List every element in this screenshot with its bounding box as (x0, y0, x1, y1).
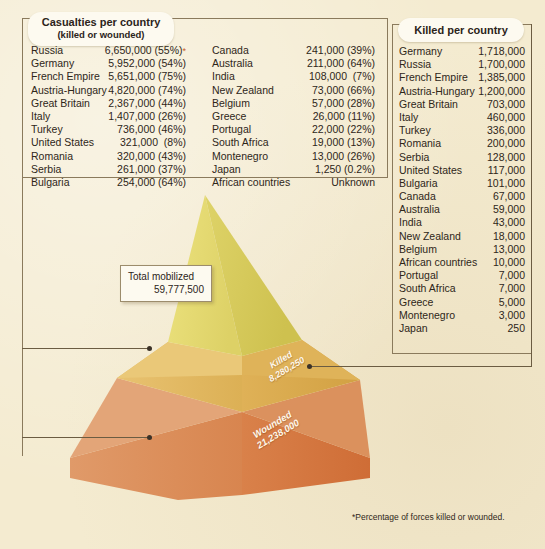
casualties-column-right: Canada241,000 (39%)Australia211,000 (64%… (212, 44, 375, 189)
row-value: 200,000 (487, 137, 525, 150)
table-row: Italy460,000 (399, 111, 525, 124)
row-country: African countries (399, 256, 477, 269)
table-row: Belgium13,000 (399, 243, 525, 256)
row-value: 241,000 (39%) (306, 44, 375, 57)
table-row: Romania320,000 (43%) (31, 150, 186, 163)
row-value: 1,407,000 (26%) (108, 110, 186, 123)
row-country: Turkey (31, 123, 63, 136)
row-value: 5,000 (499, 296, 525, 309)
row-country: Belgium (212, 97, 250, 110)
row-country: Austria-Hungary (31, 84, 107, 97)
row-value: 320,000 (43%) (117, 150, 186, 163)
table-row: Russia1,700,000 (399, 58, 525, 71)
row-country: Great Britain (31, 97, 90, 110)
row-country: Serbia (31, 163, 61, 176)
row-value: 1,200,000 (478, 85, 525, 98)
casualties-panel-title: Casualties per country (killed or wounde… (28, 12, 174, 46)
row-country: Australia (399, 203, 440, 216)
row-value: 4,820,000 (74%) (108, 84, 186, 97)
row-value: 117,000 (488, 164, 525, 177)
row-value: 108,000 (7%) (309, 70, 375, 83)
row-country: French Empire (31, 70, 100, 83)
table-row: Portugal22,000 (22%) (212, 123, 375, 136)
row-value: 1,718,000 (478, 45, 525, 58)
table-row: African countries10,000 (399, 256, 525, 269)
row-country: Romania (31, 150, 73, 163)
row-value: 5,651,000 (75%) (108, 70, 186, 83)
table-row: United States321,000 (8%) (31, 136, 186, 149)
table-row: Bulgaria101,000 (399, 177, 525, 190)
table-row: Serbia128,000 (399, 151, 525, 164)
row-value: Unknown (331, 176, 375, 189)
row-value: 18,000 (493, 230, 525, 243)
table-row: Turkey336,000 (399, 124, 525, 137)
left-bracket-line (22, 178, 23, 456)
leader-dot-killed-panel (307, 364, 312, 369)
table-row: African countriesUnknown (212, 176, 375, 189)
row-country: New Zealand (399, 230, 461, 243)
row-value: 43,000 (493, 216, 525, 229)
table-row: Great Britain703,000 (399, 98, 525, 111)
table-row: India43,000 (399, 216, 525, 229)
footnote-text: *Percentage of forces killed or wounded. (352, 512, 505, 522)
row-value: 2,367,000 (44%) (108, 97, 186, 110)
casualty-pyramid (60, 190, 390, 500)
table-row: New Zealand73,000 (66%) (212, 84, 375, 97)
row-country: Great Britain (399, 98, 458, 111)
row-country: New Zealand (212, 84, 274, 97)
casualties-subtitle-text: (killed or wounded) (28, 29, 174, 42)
row-value: 13,000 (493, 243, 525, 256)
row-value: 128,000 (487, 151, 525, 164)
row-country: Romania (399, 137, 441, 150)
table-row: Australia211,000 (64%) (212, 57, 375, 70)
table-row: South Africa19,000 (13%) (212, 136, 375, 149)
row-country: Germany (31, 57, 74, 70)
table-row: Portugal7,000 (399, 269, 525, 282)
table-row: Montenegro3,000 (399, 309, 525, 322)
row-value: 10,000 (493, 256, 525, 269)
table-row: Romania200,000 (399, 137, 525, 150)
table-row: Japan1,250 (0.2%) (212, 163, 375, 176)
table-row: Greece5,000 (399, 296, 525, 309)
row-value: 57,000 (28%) (312, 97, 375, 110)
row-value: 3,000 (499, 309, 525, 322)
row-country: Bulgaria (399, 177, 438, 190)
row-value: 1,700,000 (478, 58, 525, 71)
table-row: Austria-Hungary1,200,000 (399, 85, 525, 98)
row-country: Australia (212, 57, 253, 70)
total-mobilized-callout: Total mobilized 59,777,500 (120, 265, 212, 302)
row-value: 336,000 (487, 124, 525, 137)
row-country: United States (31, 136, 94, 149)
row-country: Serbia (399, 151, 429, 164)
row-country: Greece (212, 110, 246, 123)
table-row: Italy1,407,000 (26%) (31, 110, 186, 123)
row-country: Belgium (399, 243, 437, 256)
table-row: Germany1,718,000 (399, 45, 525, 58)
row-country: India (399, 216, 422, 229)
row-value: 101,000 (487, 177, 525, 190)
killed-panel-title: Killed per country (398, 18, 524, 42)
row-country: United States (399, 164, 462, 177)
table-row: Serbia261,000 (37%) (31, 163, 186, 176)
row-value: 1,385,000 (478, 71, 525, 84)
leader-dot-killed (147, 346, 152, 351)
row-value: 59,000 (493, 203, 525, 216)
row-country: Italy (31, 110, 50, 123)
table-row: New Zealand18,000 (399, 230, 525, 243)
table-row: Turkey736,000 (46%) (31, 123, 186, 136)
row-country: Russia (399, 58, 431, 71)
row-value: 73,000 (66%) (312, 84, 375, 97)
table-row: Australia59,000 (399, 203, 525, 216)
row-country: African countries (212, 176, 290, 189)
table-row: India108,000 (7%) (212, 70, 375, 83)
row-country: Montenegro (399, 309, 455, 322)
row-country: Germany (399, 45, 442, 58)
row-country: Bulgaria (31, 176, 70, 189)
table-row: United States117,000 (399, 164, 525, 177)
row-value: 460,000 (487, 111, 525, 124)
row-value: 5,952,000 (54%) (108, 57, 186, 70)
leader-line-killed (22, 348, 150, 349)
row-value: 321,000 (8%) (120, 136, 186, 149)
row-country: Montenegro (212, 150, 268, 163)
leader-line-wounded (22, 437, 150, 438)
